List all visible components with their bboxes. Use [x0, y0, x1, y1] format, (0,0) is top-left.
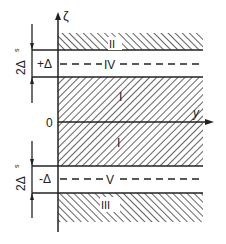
region-II-label: II — [109, 38, 115, 50]
origin-label: 0 — [46, 116, 53, 130]
region-I-lower-label: I — [117, 136, 120, 150]
svg-text:s: s — [13, 164, 20, 168]
region-III-label: III — [101, 199, 110, 211]
svg-text:2Δ: 2Δ — [14, 60, 28, 75]
minus-delta-label: -Δ — [39, 172, 51, 186]
zeta-axis-arrow-icon — [55, 12, 61, 20]
region-V-label: V — [106, 173, 114, 187]
lower-2delta-s-label: 2Δ s — [13, 164, 28, 191]
region-II — [58, 33, 203, 50]
y-label: y — [192, 106, 200, 120]
region-III — [58, 193, 203, 222]
plus-delta-label: +Δ — [37, 57, 52, 71]
zeta-label: ζ — [63, 8, 69, 23]
svg-text:s: s — [13, 48, 20, 52]
y-axis-arrow-icon — [205, 119, 214, 125]
region-I-upper-label: I — [119, 90, 122, 104]
svg-text:2Δ: 2Δ — [14, 176, 28, 191]
region-IV-label: IV — [104, 58, 115, 72]
phase-diagram: ζ y 0 II IV I I V III +Δ -Δ 2Δ s 2Δ s — [0, 0, 226, 244]
upper-2delta-s-label: 2Δ s — [13, 48, 28, 75]
